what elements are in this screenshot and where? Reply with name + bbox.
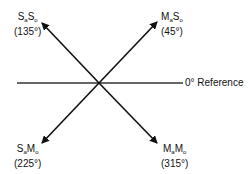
label-sub: o (183, 149, 186, 155)
label-225: SaMo (225°) (14, 143, 41, 170)
angle-label: (135°) (14, 26, 41, 38)
label-main: M (27, 143, 35, 154)
reference-label: 0° Reference (185, 77, 243, 89)
label-main: M (175, 143, 183, 154)
angle-label: (225°) (14, 158, 41, 170)
angle-label: (45°) (161, 26, 183, 38)
arrow-45 (99, 22, 157, 83)
label-135: SaSo (135°) (14, 11, 41, 38)
label-45: MaSo (45°) (161, 11, 183, 38)
label-sub: o (35, 149, 38, 155)
angle-label: (315°) (161, 158, 188, 170)
arrow-135 (42, 23, 99, 83)
label-sub: o (34, 17, 37, 23)
arrow-225 (42, 83, 99, 143)
arrow-315 (99, 83, 157, 143)
label-315: MaMo (315°) (161, 143, 188, 170)
label-sub: o (179, 17, 182, 23)
